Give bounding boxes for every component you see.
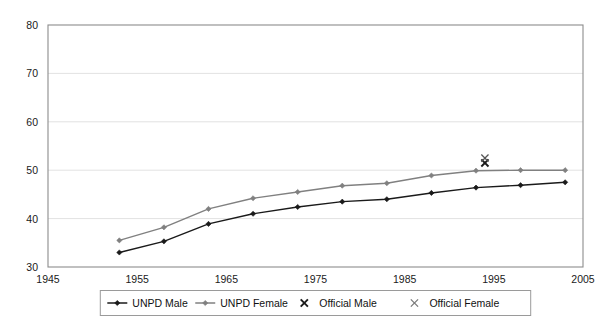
legend-label: UNPD Female bbox=[220, 297, 288, 309]
chart-canvas: 3040506070801945195519651975198519952005… bbox=[0, 0, 605, 330]
y-tick-label-40: 40 bbox=[26, 213, 38, 225]
data-point bbox=[117, 238, 122, 243]
series-line bbox=[119, 170, 565, 240]
data-point bbox=[206, 206, 211, 211]
legend-label: Official Female bbox=[429, 297, 499, 309]
x-tick-label-1945: 1945 bbox=[36, 273, 60, 285]
data-point bbox=[384, 181, 389, 186]
data-point bbox=[161, 225, 166, 230]
y-axis: 304050607080 bbox=[26, 19, 38, 273]
x-axis: 1945195519651975198519952005 bbox=[36, 273, 595, 285]
data-point bbox=[518, 168, 523, 173]
series-unpd-male bbox=[117, 180, 568, 255]
data-point bbox=[563, 180, 568, 185]
x-tick-label-2005: 2005 bbox=[571, 273, 595, 285]
data-point bbox=[563, 168, 568, 173]
x-tick-label-1985: 1985 bbox=[393, 273, 417, 285]
data-point bbox=[473, 185, 478, 190]
data-point bbox=[250, 196, 255, 201]
x-tick-label-1965: 1965 bbox=[215, 273, 239, 285]
series-official-female bbox=[481, 155, 488, 162]
y-tick-label-60: 60 bbox=[26, 116, 38, 128]
data-point bbox=[161, 239, 166, 244]
x-tick-label-1955: 1955 bbox=[125, 273, 149, 285]
data-point bbox=[295, 204, 300, 209]
series-unpd-female bbox=[117, 168, 568, 243]
legend-label: UNPD Male bbox=[132, 297, 188, 309]
data-point bbox=[340, 199, 345, 204]
data-point bbox=[250, 211, 255, 216]
y-tick-label-50: 50 bbox=[26, 164, 38, 176]
data-point bbox=[295, 189, 300, 194]
x-tick-label-1975: 1975 bbox=[304, 273, 328, 285]
data-point bbox=[384, 197, 389, 202]
y-tick-label-30: 30 bbox=[26, 261, 38, 273]
y-tick-label-80: 80 bbox=[26, 19, 38, 31]
data-point bbox=[340, 183, 345, 188]
gridlines bbox=[48, 73, 583, 218]
legend-label: Official Male bbox=[319, 297, 377, 309]
x-tick-label-1995: 1995 bbox=[482, 273, 506, 285]
data-point bbox=[117, 250, 122, 255]
legend: UNPD MaleUNPD FemaleOfficial MaleOfficia… bbox=[100, 291, 530, 316]
y-tick-label-70: 70 bbox=[26, 67, 38, 79]
plot-area-border bbox=[48, 25, 583, 267]
data-point bbox=[429, 190, 434, 195]
line-chart: 3040506070801945195519651975198519952005… bbox=[0, 0, 605, 330]
data-point bbox=[473, 168, 478, 173]
data-point bbox=[429, 173, 434, 178]
data-point bbox=[518, 183, 523, 188]
data-point bbox=[206, 221, 211, 226]
